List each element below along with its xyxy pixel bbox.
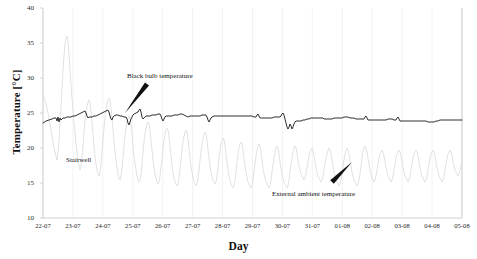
annotation-stairwell: Stairwell [66,156,91,164]
temperature-time-series-chart: Temperature [°C] 10152025303540 22-0723-… [0,0,477,259]
plot-area [0,0,477,259]
annotation-arrow-black-bulb-temperature [125,82,149,113]
annotation-external-ambient-temperature: External ambient temperature [272,190,355,198]
annotation-black-bulb-temperature: Black bulb temperature [127,72,193,80]
